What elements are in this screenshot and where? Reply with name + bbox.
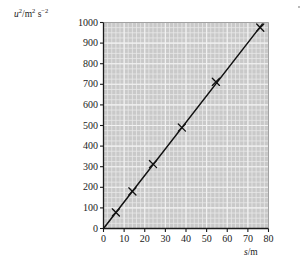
x-axis-tick-label: 80 xyxy=(259,234,279,244)
y-axis-tick-label: 900 xyxy=(64,38,98,48)
y-axis-tick-label: 800 xyxy=(64,59,98,69)
y-axis-tick-label: 200 xyxy=(64,182,98,192)
y-axis-tick-label: 700 xyxy=(64,79,98,89)
x-axis-tick-label: 70 xyxy=(238,234,258,244)
y-axis-tick-label: 300 xyxy=(64,162,98,172)
y-axis-tick-label: 1000 xyxy=(64,18,98,28)
graph-figure: u2/m2 s−2 s/m 01002003004005006007008009… xyxy=(0,0,306,273)
x-axis-tick-label: 60 xyxy=(217,234,237,244)
x-axis-tick-label: 40 xyxy=(176,234,196,244)
x-axis-tick-label: 30 xyxy=(155,234,175,244)
x-axis-tick-label: 20 xyxy=(135,234,155,244)
x-axis-tick-label: 0 xyxy=(94,234,114,244)
y-axis-tick-label: 100 xyxy=(64,203,98,213)
plot-area xyxy=(0,0,306,273)
y-axis-tick-label: 0 xyxy=(64,224,98,234)
y-axis-tick-label: 400 xyxy=(64,141,98,151)
y-axis-tick-label: 500 xyxy=(64,121,98,131)
x-axis-tick-label: 50 xyxy=(197,234,217,244)
x-axis-tick-label: 10 xyxy=(114,234,134,244)
y-axis-tick-label: 600 xyxy=(64,100,98,110)
